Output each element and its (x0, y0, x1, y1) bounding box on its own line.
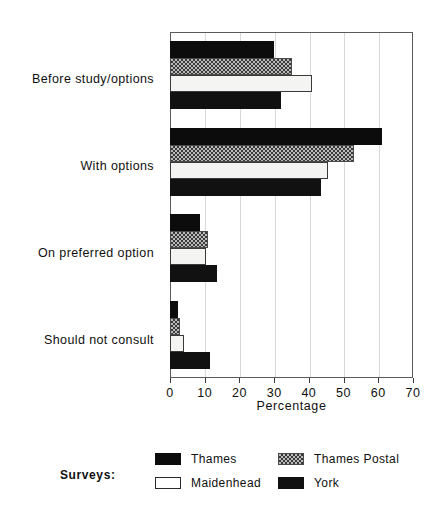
x-axis-tick-label: 10 (197, 386, 212, 400)
chart-legend: Surveys: Thames Thames Postal Maidenhead… (0, 440, 446, 500)
x-axis-tick-label: 20 (232, 386, 247, 400)
bar (170, 179, 321, 196)
legend-entry-thames: Thames (155, 452, 237, 466)
bar (170, 58, 292, 75)
x-axis-tick (413, 378, 414, 383)
bar (170, 214, 200, 231)
category-label: On preferred option (38, 246, 154, 260)
category-label: Before study/options (32, 72, 154, 86)
bar-group (170, 128, 413, 196)
bar-group (170, 41, 413, 109)
x-axis-tick (309, 378, 310, 383)
bar (170, 75, 312, 92)
bar (170, 318, 180, 335)
x-axis-tick (344, 378, 345, 383)
legend-entry-maidenhead: Maidenhead (155, 476, 261, 490)
legend-label: Thames Postal (314, 452, 399, 466)
x-axis-tick-label: 50 (336, 386, 351, 400)
bar (170, 265, 217, 282)
legend-swatch-icon (278, 477, 304, 489)
bar (170, 301, 178, 318)
x-axis-tick-label: 30 (267, 386, 282, 400)
x-axis-tick-label: 60 (371, 386, 386, 400)
bar (170, 248, 206, 265)
bar-group (170, 214, 413, 282)
category-axis-labels: Before study/options With options On pre… (0, 32, 162, 378)
x-axis-tick (274, 378, 275, 383)
bar (170, 92, 281, 109)
legend-entry-york: York (278, 476, 339, 490)
legend-label: Maidenhead (191, 476, 261, 490)
bar (170, 41, 274, 58)
bar (170, 145, 354, 162)
bars-layer (170, 32, 413, 378)
x-axis-tick (205, 378, 206, 383)
x-axis-tick-label: 0 (166, 386, 173, 400)
bar-chart: Before study/options With options On pre… (0, 0, 446, 513)
bar (170, 352, 210, 369)
legend-swatch-icon (155, 477, 181, 489)
x-axis-tick-label: 70 (406, 386, 421, 400)
legend-swatch-icon (278, 453, 304, 465)
legend-entry-thames-postal: Thames Postal (278, 452, 399, 466)
x-axis-tick (378, 378, 379, 383)
bar (170, 335, 184, 352)
bar (170, 162, 328, 179)
x-axis-tick-label: 40 (301, 386, 316, 400)
x-axis-tick (170, 378, 171, 383)
legend-title: Surveys: (60, 468, 116, 482)
x-axis-title: Percentage (170, 399, 413, 413)
category-label: Should not consult (44, 333, 154, 347)
bar-group (170, 301, 413, 369)
legend-label: York (314, 476, 339, 490)
bar (170, 231, 208, 248)
legend-swatch-icon (155, 453, 181, 465)
x-axis-tick (239, 378, 240, 383)
legend-label: Thames (191, 452, 237, 466)
bar (170, 128, 382, 145)
category-label: With options (80, 159, 154, 173)
